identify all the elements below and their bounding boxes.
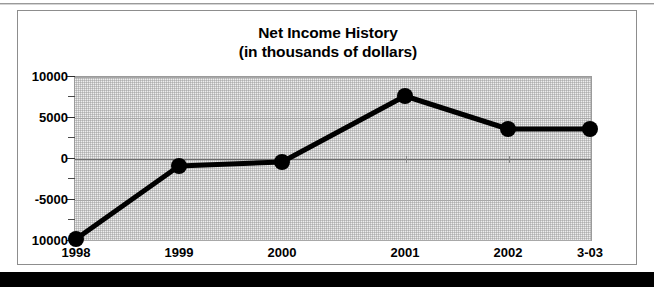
data-point-2002 xyxy=(500,121,516,137)
xtick-label-1999: 1999 xyxy=(139,245,219,260)
series-line xyxy=(76,96,590,239)
ytick-label-minus-5000: -5000 xyxy=(0,192,68,207)
ytick-label-10000: 10000 xyxy=(0,69,68,84)
xtick-label-2002: 2002 xyxy=(468,245,548,260)
data-point-2001 xyxy=(397,88,413,104)
data-point-3-03 xyxy=(582,121,598,137)
xtick-label-2000: 2000 xyxy=(242,245,322,260)
plot-wrapper: 10000 5000 0 -5000 10000 1998 1999 2000 … xyxy=(18,11,638,266)
data-point-2000 xyxy=(274,154,290,170)
figure-card: Net Income History (in thousands of doll… xyxy=(17,10,637,265)
chart-page: Net Income History (in thousands of doll… xyxy=(0,0,654,287)
data-series-net-income xyxy=(74,76,592,241)
xtick-label-1998: 1998 xyxy=(36,245,116,260)
data-point-1999 xyxy=(171,158,187,174)
bottom-black-bar xyxy=(0,272,654,287)
ytick-label-0: 0 xyxy=(0,151,68,166)
xtick-label-2001: 2001 xyxy=(365,245,445,260)
top-divider-rule-shadow xyxy=(0,4,654,5)
xtick-label-3-03: 3-03 xyxy=(550,245,630,260)
ytick-label-5000: 5000 xyxy=(0,110,68,125)
